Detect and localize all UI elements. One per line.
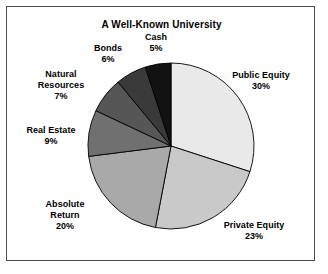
pie-label-value: 20% xyxy=(29,221,101,232)
pie-label-name: Cash xyxy=(135,32,177,43)
pie-label-bonds: Bonds6% xyxy=(85,43,131,65)
pie-label-name: Natural Resources xyxy=(25,69,97,91)
pie-label-private-equity: Private Equity23% xyxy=(210,220,298,242)
pie-label-value: 7% xyxy=(25,91,97,102)
pie-label-value: 23% xyxy=(210,231,298,242)
pie-label-value: 6% xyxy=(85,54,131,65)
pie-label-name: Absolute Return xyxy=(29,199,101,221)
pie-label-value: 9% xyxy=(13,136,89,147)
pie-label-value: 5% xyxy=(135,43,177,54)
pie-label-value: 30% xyxy=(220,81,302,92)
pie-label-natural-resources: Natural Resources7% xyxy=(25,69,97,102)
pie-label-name: Real Estate xyxy=(13,125,89,136)
pie-label-public-equity: Public Equity30% xyxy=(220,70,302,92)
chart-page: A Well-Known University Public Equity30%… xyxy=(0,0,328,274)
pie-label-cash: Cash5% xyxy=(135,32,177,54)
pie-label-real-estate: Real Estate9% xyxy=(13,125,89,147)
chart-frame: A Well-Known University Public Equity30%… xyxy=(6,6,315,261)
pie-plot-area: Public Equity30%Private Equity23%Absolut… xyxy=(7,7,316,262)
pie-label-name: Bonds xyxy=(85,43,131,54)
pie-label-name: Private Equity xyxy=(210,220,298,231)
pie-label-name: Public Equity xyxy=(220,70,302,81)
pie-label-absolute-return: Absolute Return20% xyxy=(29,199,101,232)
